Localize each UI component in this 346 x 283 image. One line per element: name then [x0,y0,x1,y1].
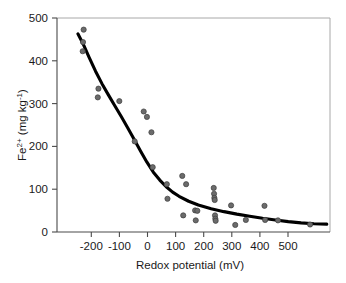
data-point [228,203,233,208]
data-point [80,40,85,45]
x-tick-label-neg100: -100 [108,240,131,252]
data-point [263,217,268,222]
data-point [81,27,86,32]
data-point [80,49,85,54]
data-point [132,139,137,144]
data-point [181,213,186,218]
data-point [180,173,185,178]
data-point [96,86,101,91]
x-tick-label-300: 300 [222,240,241,252]
data-point [275,218,280,223]
data-point [150,165,155,170]
data-point [307,222,312,227]
data-point [262,203,267,208]
data-point [243,217,248,222]
data-point [212,197,217,202]
y-axis-title-superscript: 2+ [15,138,24,147]
data-point [149,130,154,135]
data-point [193,218,198,223]
data-point [213,218,218,223]
data-point [233,222,238,227]
y-tick-label-300: 300 [29,98,48,110]
x-tick-label-100: 100 [166,240,185,252]
data-point [211,185,216,190]
data-point [95,95,100,100]
y-tick-label-200: 200 [29,140,48,152]
data-point [117,99,122,104]
y-tick-label-100: 100 [29,183,48,195]
y-tick-label-0: 0 [42,226,48,238]
x-tick-label-0: 0 [144,240,150,252]
data-point [195,208,200,213]
y-axis-title-units-close: ) [16,89,28,93]
y-axis-title-units-open: (mg kg [16,100,28,138]
x-tick-label-400: 400 [250,240,269,252]
x-tick-label-200: 200 [194,240,213,252]
data-point [184,182,189,187]
scatter-plot: 0 100 200 300 400 500 -200 -100 0 100 20… [0,0,346,283]
x-tick-label-500: 500 [278,240,297,252]
x-axis-title: Redox potential (mV) [136,259,244,271]
data-point [144,114,149,119]
y-axis-title-base: Fe [16,148,28,161]
x-tick-label-neg200: -200 [80,240,103,252]
data-point [165,196,170,201]
y-tick-label-400: 400 [29,55,48,67]
data-point [164,182,169,187]
y-tick-label-500: 500 [29,12,48,24]
data-point [141,109,146,114]
figure-container: 0 100 200 300 400 500 -200 -100 0 100 20… [0,0,346,283]
